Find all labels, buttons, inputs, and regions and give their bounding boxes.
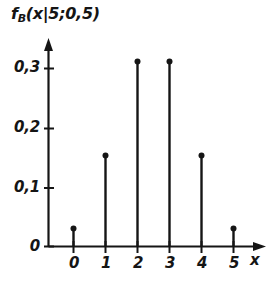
y-tick-label-0: 0 — [0, 239, 40, 254]
x-tick-label-5: 5 — [220, 256, 248, 271]
x-axis-label: x — [250, 253, 259, 268]
stem-point-1 — [103, 153, 109, 247]
stem-point-3 — [167, 59, 173, 247]
y-tick-label-0.1: 0,1 — [0, 180, 40, 195]
stem-point-4 — [199, 153, 205, 247]
stem-series — [71, 59, 237, 247]
y-tick-label-0.3: 0,3 — [0, 60, 40, 75]
x-tick-label-1: 1 — [92, 256, 120, 271]
y-tick-label-0.2: 0,2 — [0, 120, 40, 135]
x-tick-label-4: 4 — [188, 256, 216, 271]
chart-figure: fB(x|5;0,5) — [0, 0, 275, 286]
stem-point-2 — [135, 59, 141, 247]
chart-plot-area — [0, 0, 275, 286]
x-tick-label-2: 2 — [124, 256, 152, 271]
x-tick-label-3: 3 — [156, 256, 184, 271]
x-tick-label-0: 0 — [60, 256, 88, 271]
stem-point-5 — [231, 226, 237, 247]
stem-point-0 — [71, 226, 77, 247]
